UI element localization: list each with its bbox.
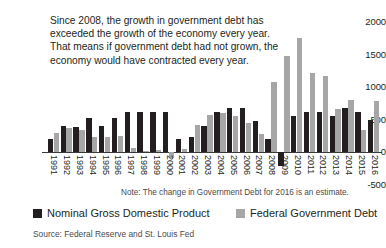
bar-nominal-gdp [99, 126, 104, 152]
bar-nominal-gdp [304, 112, 309, 152]
bar-nominal-gdp [176, 139, 181, 152]
x-axis-tick-label: 1998 [137, 155, 150, 201]
legend-item-federal-debt: Federal Government Debt [236, 208, 377, 219]
x-axis-tick-label: 1995 [98, 155, 111, 201]
x-axis-tick-label: 2013 [329, 155, 342, 201]
bar-federal-debt [54, 133, 59, 152]
bar-federal-debt [297, 38, 302, 152]
bar-federal-debt [156, 150, 161, 152]
bar-federal-debt [207, 115, 212, 152]
bar-federal-debt [259, 134, 264, 152]
bar-federal-debt [118, 136, 123, 152]
bar-federal-debt [79, 130, 84, 152]
legend-label-federal-debt: Federal Government Debt [250, 208, 377, 219]
bar-nominal-gdp [150, 112, 155, 152]
x-axis-tick-label: 2005 [226, 155, 239, 201]
x-axis-tick-label: 2006 [239, 155, 252, 201]
x-axis-tick-label: 1992 [60, 155, 73, 201]
bar-nominal-gdp [48, 139, 53, 152]
bar-federal-debt [348, 100, 353, 152]
legend-item-nominal-gdp: Nominal Gross Domestic Product [33, 208, 210, 219]
bar-nominal-gdp [253, 121, 258, 152]
bar-federal-debt [310, 73, 315, 152]
bar-nominal-gdp [61, 126, 66, 152]
bar-nominal-gdp [125, 112, 130, 152]
chart-container: -5000500100015002000 Since 2008, the gro… [0, 0, 386, 248]
x-axis-tick-label: 2012 [316, 155, 329, 201]
legend-swatch-icon-nominal-gdp [33, 209, 42, 218]
bar-federal-debt [131, 148, 136, 152]
x-axis-tick-label: 2016 [367, 155, 380, 201]
x-axis-tick-label: 2003 [201, 155, 214, 201]
x-axis-tick-label: 2004 [214, 155, 227, 201]
legend-label-nominal-gdp: Nominal Gross Domestic Product [47, 208, 210, 219]
x-axis-tick-label: 2011 [303, 155, 316, 201]
x-axis-tick-label: 2010 [290, 155, 303, 201]
chart-annotation-text: Since 2008, the growth in government deb… [50, 14, 290, 67]
bar-nominal-gdp [291, 116, 296, 152]
bar-nominal-gdp [227, 108, 232, 152]
x-axis-tick-label: 2015 [354, 155, 367, 201]
bar-nominal-gdp [330, 116, 335, 152]
bar-federal-debt [361, 130, 366, 152]
bar-nominal-gdp [317, 112, 322, 152]
x-axis-tick-label: 2002 [188, 155, 201, 201]
bar-federal-debt [92, 137, 97, 152]
bar-nominal-gdp [112, 118, 117, 152]
x-axis-tick-label: 1996 [111, 155, 124, 201]
bar-nominal-gdp [240, 108, 245, 152]
bar-federal-debt [66, 128, 71, 152]
bar-nominal-gdp [368, 120, 373, 152]
bar-nominal-gdp [137, 112, 142, 152]
x-axis-tick-label: 1994 [85, 155, 98, 201]
bar-nominal-gdp [201, 126, 206, 152]
bar-federal-debt [374, 101, 379, 152]
bar-federal-debt [233, 116, 238, 152]
x-axis-tick-label: 1999 [149, 155, 162, 201]
bar-federal-debt [143, 151, 148, 152]
bar-nominal-gdp [214, 112, 219, 152]
chart-legend: Nominal Gross Domestic Product Federal G… [33, 208, 386, 223]
chart-source-text: Source: Federal Reserve and St. Louis Fe… [33, 230, 194, 239]
bar-federal-debt [195, 125, 200, 152]
bar-nominal-gdp [86, 118, 91, 152]
bar-nominal-gdp [342, 108, 347, 152]
bar-nominal-gdp [189, 137, 194, 152]
bar-nominal-gdp [265, 139, 270, 152]
bar-federal-debt [271, 82, 276, 152]
bar-federal-debt [246, 123, 251, 152]
x-axis-tick-label: 1991 [47, 155, 60, 201]
x-axis-tick-label: 1997 [124, 155, 137, 201]
bar-federal-debt [335, 109, 340, 152]
x-axis-tick-label: 2007 [252, 155, 265, 201]
x-axis-tick-label: 2001 [175, 155, 188, 201]
bar-federal-debt [220, 113, 225, 152]
x-axis-tick-label: 2008 [265, 155, 278, 201]
bar-nominal-gdp [163, 112, 168, 152]
legend-swatch-icon-federal-debt [236, 209, 245, 218]
bar-nominal-gdp [355, 112, 360, 152]
bar-federal-debt [323, 76, 328, 152]
x-axis-tick-label: 1993 [73, 155, 86, 201]
x-axis-tick-label: 2000 [162, 155, 175, 201]
bar-nominal-gdp [73, 127, 78, 152]
bar-federal-debt [182, 149, 187, 152]
bar-federal-debt [105, 137, 110, 152]
x-axis-tick-label: 2009 [278, 155, 291, 201]
x-axis-tick-label: 2014 [342, 155, 355, 201]
bar-federal-debt [284, 56, 289, 152]
